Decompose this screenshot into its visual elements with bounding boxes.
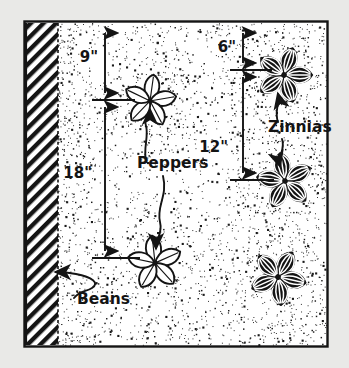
dim-9in-label: 9" <box>80 48 98 66</box>
label-beans: Beans <box>77 290 130 308</box>
diagram-canvas: 9"18"6"12" PeppersZinniasBeans <box>0 0 349 368</box>
dim-18in-label: 18" <box>63 164 92 182</box>
garden-planting-diagram: 9"18"6"12" PeppersZinniasBeans 9" 18" 6"… <box>0 0 349 368</box>
label-zinnias: Zinnias <box>268 118 332 136</box>
label-peppers: Peppers <box>137 154 208 172</box>
garden-wall-hatched <box>26 23 58 345</box>
dim-6in-label: 6" <box>218 38 236 56</box>
